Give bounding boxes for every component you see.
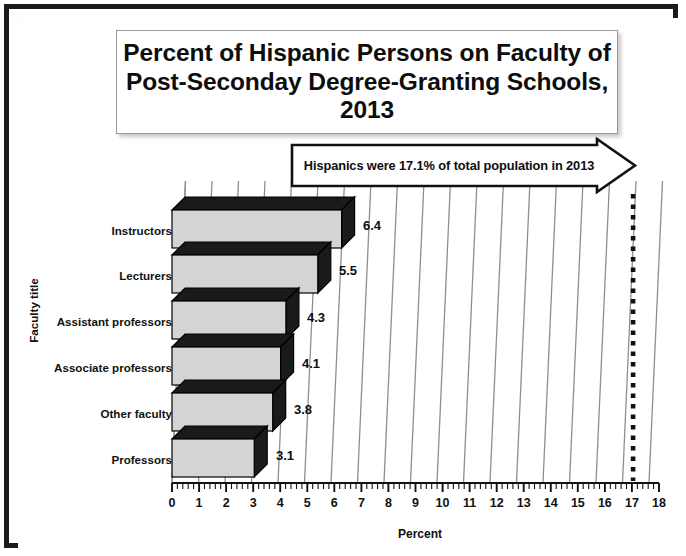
x-tick-label-0: 0 (159, 496, 185, 510)
outer-frame: Instructors Lecturers Assistant professo… (4, 4, 678, 548)
x-tick-label-10: 10 (430, 496, 456, 510)
x-tick-label-9: 9 (403, 496, 429, 510)
value-label-associate-professors: 4.1 (302, 356, 320, 371)
x-tick-label-1: 1 (186, 496, 212, 510)
value-label-assistant-professors: 4.3 (307, 310, 325, 325)
bar-assistant-professors (172, 288, 299, 339)
category-label-lecturers: Lecturers (119, 269, 172, 282)
y-axis-title: Faculty title (27, 266, 40, 356)
x-tick-label-14: 14 (538, 496, 564, 510)
bar-associate-professors (172, 334, 294, 385)
x-tick-label-5: 5 (294, 496, 320, 510)
value-label-lecturers: 5.5 (339, 263, 357, 278)
value-label-other-faculty: 3.8 (294, 402, 312, 417)
x-tick-label-12: 12 (484, 496, 510, 510)
category-label-professors: Professors (111, 453, 172, 466)
value-label-professors: 3.1 (276, 448, 294, 463)
x-axis-title: Percent (181, 527, 659, 541)
chart-title-box: Percent of Hispanic Persons on Faculty o… (116, 30, 618, 134)
x-tick-label-16: 16 (592, 496, 618, 510)
x-tick-label-4: 4 (267, 496, 293, 510)
category-label-associate-professors: Associate professors (54, 361, 172, 374)
x-axis (172, 483, 659, 492)
x-tick-label-13: 13 (511, 496, 537, 510)
x-tick-label-18: 18 (646, 496, 672, 510)
x-tick-label-3: 3 (240, 496, 266, 510)
chart-canvas: Instructors Lecturers Assistant professo… (18, 18, 682, 552)
x-tick-label-15: 15 (565, 496, 591, 510)
category-label-instructors: Instructors (111, 224, 172, 237)
bar-professors (172, 426, 267, 477)
x-tick-label-17: 17 (619, 496, 645, 510)
page-title: Percent of Hispanic Persons on Faculty o… (117, 39, 617, 124)
category-label-other-faculty: Other faculty (100, 407, 172, 420)
callout-text: Hispanics were 17.1% of total population… (304, 137, 594, 194)
x-tick-label-2: 2 (213, 496, 239, 510)
category-label-assistant-professors: Assistant professors (57, 315, 172, 328)
x-tick-label-6: 6 (321, 496, 347, 510)
x-tick-label-7: 7 (348, 496, 374, 510)
value-label-instructors: 6.4 (363, 218, 381, 233)
bar-lecturers (172, 242, 331, 293)
bar-other-faculty (172, 380, 286, 431)
bar-instructors (172, 197, 355, 248)
callout-arrow: Hispanics were 17.1% of total population… (290, 137, 638, 194)
x-tick-label-11: 11 (457, 496, 483, 510)
x-tick-label-8: 8 (375, 496, 401, 510)
chart-screenshot: Instructors Lecturers Assistant professo… (0, 0, 686, 556)
